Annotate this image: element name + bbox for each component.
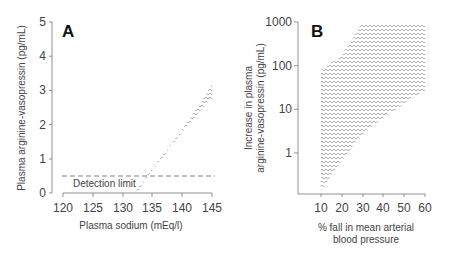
- panel-a-y-label: Plasma arginine-vasopressin (pg/mL): [16, 25, 27, 191]
- panel-b-y-label-line2: arginine-vasopressin (pg/mL): [255, 43, 266, 173]
- panel-b-band: [321, 24, 425, 190]
- panel-a-band: [135, 83, 212, 193]
- y-tick: 1000: [265, 15, 292, 29]
- y-tick: 100: [272, 59, 292, 73]
- panel-a: A 0 1 2 3 4 5 Plasma arginine-vasopressi…: [16, 15, 222, 231]
- x-tick: 130: [113, 201, 133, 215]
- y-tick: 5: [39, 15, 46, 29]
- panel-b-label: B: [311, 22, 323, 41]
- y-tick: 1: [285, 146, 292, 160]
- x-tick: 125: [83, 201, 103, 215]
- panel-b: B 1000 100 10 1 Increase in plasma argin…: [243, 15, 432, 245]
- panel-a-x-label: Plasma sodium (mEq/l): [79, 220, 182, 231]
- x-tick: 40: [376, 201, 390, 215]
- panel-b-x-label-line1: % fall in mean arterial: [318, 222, 414, 233]
- x-tick: 120: [53, 201, 73, 215]
- x-tick: 140: [172, 201, 192, 215]
- y-tick: 2: [39, 118, 46, 132]
- y-tick: 4: [39, 49, 46, 63]
- y-tick: 10: [279, 102, 293, 116]
- panel-a-label: A: [62, 22, 74, 41]
- figure: A 0 1 2 3 4 5 Plasma arginine-vasopressi…: [0, 0, 451, 258]
- panel-b-y-label-line1: Increase in plasma: [243, 66, 254, 150]
- x-tick: 30: [356, 201, 370, 215]
- x-tick: 60: [418, 201, 432, 215]
- x-tick: 135: [142, 201, 162, 215]
- detection-limit-label: Detection limit: [73, 178, 136, 189]
- y-tick: 0: [39, 186, 46, 200]
- x-tick: 50: [397, 201, 411, 215]
- x-tick: 10: [314, 201, 328, 215]
- panel-b-x-label-line2: blood pressure: [333, 234, 400, 245]
- y-tick: 1: [39, 152, 46, 166]
- y-tick: 3: [39, 83, 46, 97]
- x-tick: 145: [202, 201, 222, 215]
- x-tick: 20: [335, 201, 349, 215]
